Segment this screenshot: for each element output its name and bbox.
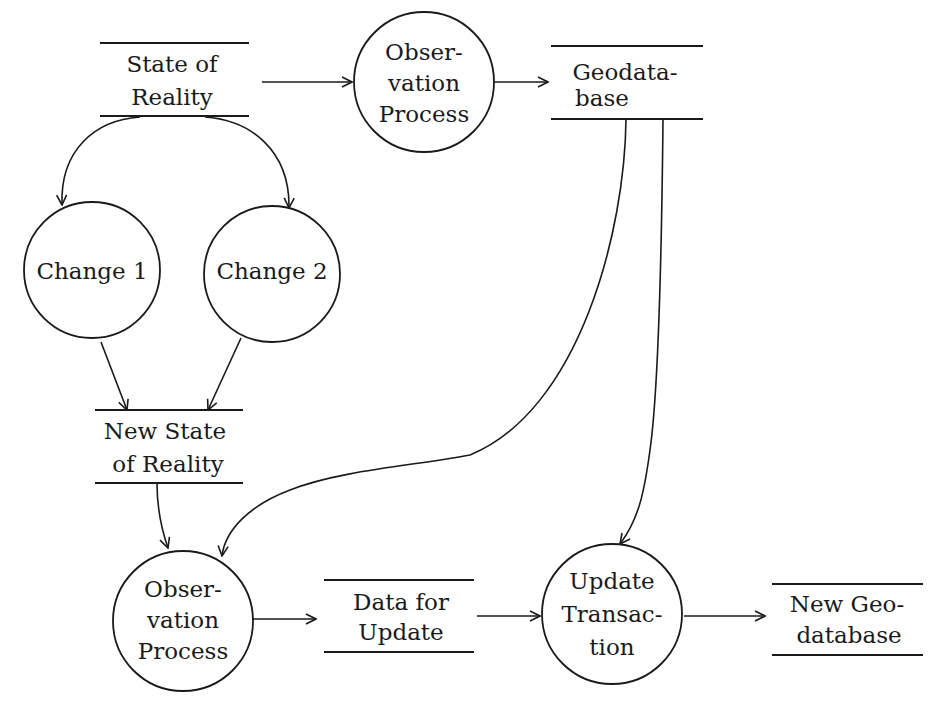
process-observation-top: Obser- vation Process [354, 12, 494, 152]
edge-change-2-to-new-state [208, 338, 241, 410]
edge-change-1-to-new-state [101, 342, 127, 410]
process-label-line1: Update [569, 568, 654, 594]
process-label-line2: Transac- [561, 601, 662, 627]
store-label-line2: database [796, 622, 901, 648]
store-label-line1: State of [126, 51, 219, 77]
data-store-new-state-of-reality: New State of Reality [95, 410, 243, 483]
store-label-line2: Update [358, 619, 443, 645]
process-change-1: Change 1 [24, 202, 160, 338]
process-observation-bottom: Obser- vation Process [113, 551, 253, 691]
data-store-geodatabase: Geodata- base [551, 46, 703, 119]
process-label-line3: Process [138, 638, 228, 664]
data-store-new-geodatabase: New Geo- database [772, 584, 923, 655]
process-label-line1: Change 1 [36, 258, 147, 284]
edge-new-state-to-observation-bottom [157, 483, 168, 548]
process-label-line1: Obser- [385, 39, 463, 65]
process-label-line1: Change 2 [216, 258, 327, 284]
process-change-2: Change 2 [204, 206, 340, 342]
process-label-line2: vation [387, 70, 460, 96]
process-label-line2: vation [146, 607, 219, 633]
store-label-line1: Geodata- [573, 59, 678, 85]
process-label-line3: tion [589, 634, 634, 660]
data-store-state-of-reality: State of Reality [100, 43, 249, 116]
edge-geodatabase-to-update-transaction [620, 119, 663, 544]
data-flow-diagram: State of Reality Geodata- base New State… [0, 0, 942, 704]
process-label-line1: Obser- [144, 576, 222, 602]
data-store-data-for-update: Data for Update [324, 580, 474, 652]
edges [62, 82, 765, 619]
store-label-line1: New Geo- [790, 591, 904, 617]
process-label-line3: Process [379, 101, 469, 127]
edge-state-to-change-1 [62, 117, 140, 205]
store-label-line2: base [575, 85, 629, 111]
store-label-line2: of Reality [112, 451, 223, 477]
store-label-line2: Reality [131, 84, 213, 110]
process-update-transaction: Update Transac- tion [542, 544, 682, 684]
edge-state-to-change-2 [205, 117, 289, 208]
store-label-line1: Data for [353, 589, 449, 615]
store-label-line1: New State [104, 418, 226, 444]
